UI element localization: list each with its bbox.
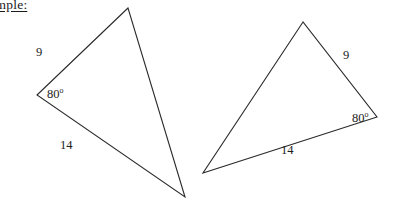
left-angle-value: 80 <box>47 87 60 101</box>
left-triangle-angle-80-label: 80o <box>47 88 64 101</box>
right-triangle-angle-80-label: 80o <box>352 112 369 125</box>
left-triangle-outline <box>37 8 185 197</box>
left-triangle-side-9-label: 9 <box>36 46 42 59</box>
right-degree-symbol: o <box>365 110 369 119</box>
left-triangle-side-14-label: 14 <box>60 139 73 152</box>
right-triangle-side-14-label: 14 <box>281 144 294 157</box>
left-triangle-shape <box>37 8 185 197</box>
right-triangle-side-9-label: 9 <box>343 49 349 62</box>
figure-page: Example: 9 80o 14 9 80o 14 <box>0 0 393 203</box>
triangles-figure <box>0 0 393 203</box>
right-angle-value: 80 <box>352 111 365 125</box>
left-degree-symbol: o <box>60 86 64 95</box>
